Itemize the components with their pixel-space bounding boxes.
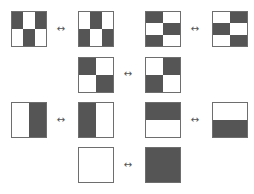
pattern-grid-2x3-a xyxy=(145,11,181,47)
bidirectional-arrow-icon: ↔ xyxy=(121,69,135,79)
light-cell xyxy=(90,29,101,46)
bidirectional-arrow-icon: ↔ xyxy=(54,24,68,34)
pattern-grid-3x2-a xyxy=(11,11,47,47)
light-cell xyxy=(213,35,230,46)
bidirectional-arrow-icon: ↔ xyxy=(121,160,135,170)
light-cell xyxy=(79,12,90,29)
dark-cell xyxy=(146,35,163,46)
dark-cell xyxy=(213,120,247,137)
dark-cell xyxy=(35,12,46,29)
pattern-grid-2x2-a xyxy=(78,57,114,93)
light-cell xyxy=(35,29,46,46)
dark-cell xyxy=(230,12,247,23)
light-cell xyxy=(102,12,113,29)
dark-cell xyxy=(79,103,96,137)
dark-cell xyxy=(79,29,90,46)
dark-cell xyxy=(146,12,163,23)
dark-cell xyxy=(163,23,180,34)
light-cell xyxy=(96,103,113,137)
dark-cell xyxy=(146,75,163,92)
dark-cell xyxy=(146,148,180,182)
pattern-grid-2x3-b xyxy=(212,11,248,47)
light-cell xyxy=(163,35,180,46)
dark-cell xyxy=(230,35,247,46)
pattern-grid-vertical-split-a xyxy=(11,102,47,138)
pattern-grid-3x2-b xyxy=(78,11,114,47)
pattern-grid-vertical-split-b xyxy=(78,102,114,138)
dark-cell xyxy=(90,12,101,29)
light-cell xyxy=(12,29,23,46)
light-cell xyxy=(79,75,96,92)
bidirectional-arrow-icon: ↔ xyxy=(188,24,202,34)
light-cell xyxy=(146,23,163,34)
light-cell xyxy=(12,103,29,137)
dark-cell xyxy=(213,23,230,34)
bidirectional-arrow-icon: ↔ xyxy=(54,115,68,125)
light-cell xyxy=(213,12,230,23)
light-cell xyxy=(96,58,113,75)
pattern-grid-solid-dark xyxy=(145,147,181,183)
bidirectional-arrow-icon: ↔ xyxy=(188,115,202,125)
light-cell xyxy=(213,103,247,120)
light-cell xyxy=(146,120,180,137)
dark-cell xyxy=(23,29,34,46)
light-cell xyxy=(163,75,180,92)
light-cell xyxy=(163,12,180,23)
pattern-grid-solid-white xyxy=(78,147,114,183)
light-cell xyxy=(230,23,247,34)
pattern-grid-2x2-b xyxy=(145,57,181,93)
pattern-grid-horizontal-split-a xyxy=(145,102,181,138)
dark-cell xyxy=(146,103,180,120)
light-cell xyxy=(79,148,113,182)
dark-cell xyxy=(96,75,113,92)
dark-cell xyxy=(102,29,113,46)
light-cell xyxy=(23,12,34,29)
light-cell xyxy=(146,58,163,75)
pattern-grid-horizontal-split-b xyxy=(212,102,248,138)
dark-cell xyxy=(12,12,23,29)
dark-cell xyxy=(163,58,180,75)
dark-cell xyxy=(79,58,96,75)
dark-cell xyxy=(29,103,46,137)
